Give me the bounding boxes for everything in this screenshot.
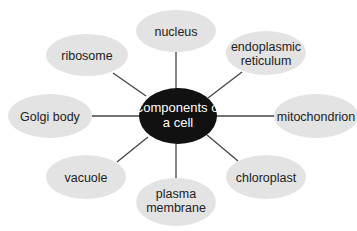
node-chloroplast: chloroplast — [226, 155, 306, 199]
node-label: vacuole — [64, 171, 107, 185]
node-label-line-1: endoplasmic — [231, 40, 301, 54]
node-endoplasmic-reticulum: endoplasmic reticulum — [226, 31, 306, 75]
node-golgi-body: Golgi body — [8, 94, 92, 138]
center-label-line-1: Components of — [134, 100, 223, 115]
node-label: Golgi body — [20, 110, 81, 124]
node-label-line-2: reticulum — [241, 54, 292, 68]
node-plasma-membrane: plasma membrane — [136, 178, 216, 226]
cell-components-diagram: nucleus endoplasmic reticulum mitochondr… — [0, 0, 357, 231]
node-vacuole: vacuole — [46, 155, 126, 199]
connector-ribosome — [113, 73, 146, 96]
node-label: mitochondrion — [277, 110, 356, 124]
connector-chloroplast — [207, 135, 238, 161]
node-label: ribosome — [61, 49, 112, 63]
node-label-line-2: membrane — [146, 201, 206, 215]
center-label-line-2: a cell — [163, 115, 193, 130]
node-mitochondrion: mitochondrion — [274, 94, 357, 138]
node-ribosome: ribosome — [46, 34, 128, 76]
connector-endoplasmic-reticulum — [208, 72, 242, 98]
node-nucleus: nucleus — [136, 10, 216, 52]
node-label: chloroplast — [236, 171, 297, 185]
connector-vacuole — [117, 137, 148, 162]
node-label: nucleus — [154, 25, 197, 39]
node-label-line-1: plasma — [156, 187, 196, 201]
